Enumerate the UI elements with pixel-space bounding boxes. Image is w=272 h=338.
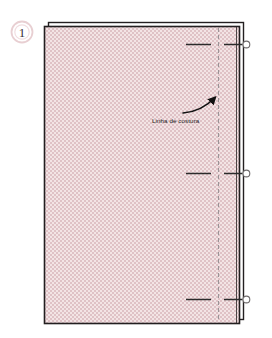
seam-line-label: Linha de costura (152, 117, 200, 124)
notch-circle-marker (243, 296, 250, 303)
diagram-canvas: Linha de costura 1 (0, 0, 272, 338)
notch-circle-marker (243, 170, 250, 177)
step-number-label: 1 (19, 25, 26, 40)
step-number-marker: 1 (12, 22, 33, 43)
notch-circle-marker (243, 41, 250, 48)
sewing-pattern-diagram: Linha de costura 1 (0, 0, 272, 338)
fabric-piece (45, 27, 240, 324)
